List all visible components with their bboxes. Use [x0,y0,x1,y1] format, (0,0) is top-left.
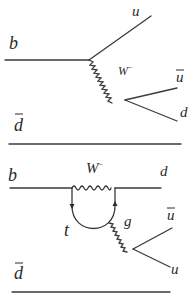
label-g: g [124,213,132,229]
label-w: W− [118,63,133,78]
label-ubar: u [176,69,184,85]
label-u: u [171,261,179,277]
label-t: t [64,220,70,240]
ubar-quark-line [125,88,177,100]
svg-text:d: d [14,263,24,283]
diagram-tree-level: b u W− u d d [5,3,188,144]
w-boson-wiggle [72,186,111,190]
svg-text:d: d [14,115,24,135]
label-d: d [160,163,168,179]
d-quark-line [125,100,177,121]
arrow-down-icon [70,204,75,209]
label-u: u [132,3,140,19]
label-b: b [8,165,17,185]
diagram-penguin: b W− d t g u u d [8,160,179,292]
ubar-quark-line [133,228,172,249]
svg-text:u: u [167,207,175,223]
label-d: d [180,104,188,120]
u-quark-line [133,249,170,267]
label-dbar: d [14,263,24,283]
svg-text:u: u [176,69,184,85]
arrow-up-icon [113,201,118,206]
top-quark-loop [72,188,115,229]
label-w: W− [86,160,104,176]
feynman-diagrams: b u W− u d d b W− d t g u u [0,0,195,298]
w-boson-wiggle [89,60,112,103]
label-b: b [9,33,18,53]
u-quark-line [89,16,151,60]
label-dbar: d [14,114,24,135]
label-ubar: u [167,207,175,223]
